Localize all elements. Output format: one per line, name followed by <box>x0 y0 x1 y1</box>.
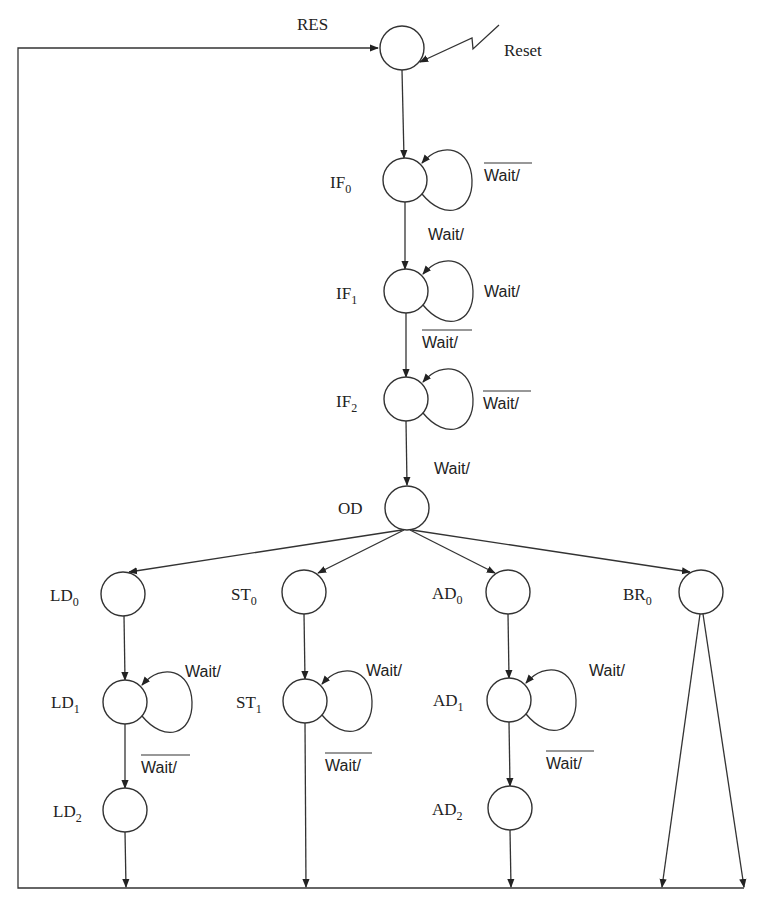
cond-ad1-to-ad2: Wait/ <box>546 751 594 772</box>
edge-ld2-bus <box>125 832 126 887</box>
state-if1: IF1 Wait/ <box>336 261 520 322</box>
state-circle-if2 <box>384 377 428 421</box>
ad2-label: AD2 <box>432 800 463 823</box>
if0-label: IF0 <box>330 173 351 196</box>
state-st1: ST1 Wait/ <box>236 662 402 731</box>
st0-label: ST0 <box>231 585 257 608</box>
state-od: OD <box>338 486 429 530</box>
state-circle-br0 <box>679 570 723 614</box>
svg-text:Wait/: Wait/ <box>483 395 519 412</box>
cond-st1-self: Wait/ <box>366 662 402 679</box>
edge-res-if0 <box>402 70 404 158</box>
cond-if0-to-if1: Wait/ <box>428 226 464 243</box>
cond-ad1-self: Wait/ <box>589 662 625 679</box>
state-st0: ST0 <box>231 570 326 614</box>
state-circle-ad1 <box>487 678 531 722</box>
state-circle-od <box>385 486 429 530</box>
state-ld1: LD1 Wait/ <box>51 663 221 732</box>
state-circle-ad2 <box>488 786 532 830</box>
edge-st0-st1 <box>304 614 305 679</box>
state-ad2: AD2 <box>432 786 532 830</box>
self-loop-if2 <box>423 369 473 430</box>
svg-text:Wait/: Wait/ <box>141 759 177 776</box>
reset-label: Reset <box>504 41 542 60</box>
state-circle-ld2 <box>103 788 147 832</box>
ld1-label: LD1 <box>51 693 80 716</box>
ld0-label: LD0 <box>50 586 79 609</box>
ad0-label: AD0 <box>432 584 463 607</box>
res-label: RES <box>297 15 328 34</box>
state-ld2: LD2 <box>53 788 147 832</box>
cond-if1-to-if2: Wait/ <box>422 330 472 351</box>
if2-label: IF2 <box>336 392 357 415</box>
state-diagram: RES Reset IF0 Wait/ Wait/ IF1 Wait/ Wait… <box>0 0 769 911</box>
edge-ad0-ad1 <box>508 614 509 678</box>
state-circle-ld0 <box>101 572 145 616</box>
svg-text:Wait/: Wait/ <box>325 757 361 774</box>
svg-text:Wait/: Wait/ <box>546 755 582 772</box>
br0-label: BR0 <box>623 585 652 608</box>
reset-input: Reset <box>420 25 542 62</box>
cond-if1-self: Wait/ <box>484 283 520 300</box>
state-circle-ad0 <box>486 570 530 614</box>
state-ad0: AD0 <box>432 570 530 614</box>
self-loop-ld1 <box>142 672 192 733</box>
edge-br0-bus-right <box>703 614 744 887</box>
return-to-res-edge <box>18 48 378 888</box>
return-loop <box>18 48 744 888</box>
state-ad1: AD1 Wait/ <box>433 662 625 730</box>
ad1-label: AD1 <box>433 691 464 714</box>
reset-lightning-arrow-icon <box>420 25 499 62</box>
cond-st1-exit: Wait/ <box>325 753 372 774</box>
st1-label: ST1 <box>236 693 262 716</box>
edge-st1-bus <box>305 723 306 887</box>
self-loop-if1 <box>423 261 473 322</box>
edge-br0-bus-left <box>662 614 700 887</box>
state-circle-ld1 <box>103 680 147 724</box>
edge-ad2-bus <box>510 830 511 887</box>
cond-if0-self: Wait/ <box>484 163 532 184</box>
od-label: OD <box>338 499 363 518</box>
edge-ad1-ad2 <box>509 722 510 786</box>
state-ld0: LD0 <box>50 572 145 616</box>
self-loop-if0 <box>422 150 472 211</box>
state-circle-if1 <box>384 269 428 313</box>
svg-text:Wait/: Wait/ <box>484 167 520 184</box>
cond-if2-self: Wait/ <box>483 391 531 412</box>
self-loop-st1 <box>322 671 372 732</box>
state-if0: IF0 Wait/ <box>330 150 532 211</box>
ld2-label: LD2 <box>53 802 82 825</box>
edge-ld0-ld1 <box>124 616 125 680</box>
cond-ld1-self: Wait/ <box>185 663 221 680</box>
svg-text:Wait/: Wait/ <box>422 334 458 351</box>
state-br0: BR0 <box>623 570 723 614</box>
state-circle-if0 <box>383 158 427 202</box>
if1-label: IF1 <box>336 284 357 307</box>
state-circle-st1 <box>283 679 327 723</box>
state-res: RES <box>297 15 424 70</box>
edge-if2-od <box>406 421 407 485</box>
cond-if2-to-od: Wait/ <box>434 460 470 477</box>
state-circle-res <box>380 26 424 70</box>
state-if2: IF2 Wait/ <box>336 369 531 430</box>
state-circle-st0 <box>282 570 326 614</box>
edge-od-br0 <box>412 530 690 572</box>
self-loop-ad1 <box>526 670 576 731</box>
cond-ld1-to-ld2: Wait/ <box>141 755 190 776</box>
